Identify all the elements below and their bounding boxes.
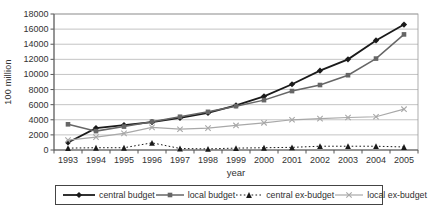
legend-label: central budget	[99, 190, 155, 200]
triangle-marker	[401, 144, 407, 150]
square-marker	[206, 110, 211, 115]
square-marker	[150, 119, 155, 124]
central-budget-line-diamond-icon	[62, 190, 96, 200]
x-tick-label: 2002	[310, 155, 330, 165]
y-tick-label: 0	[43, 145, 48, 155]
square-marker	[94, 129, 99, 134]
square-marker	[167, 193, 172, 198]
square-marker	[122, 124, 127, 129]
y-tick-label: 2000	[28, 130, 48, 140]
budget-line-chart-figure: 100 million 0200040006000800010000120001…	[0, 0, 429, 211]
square-marker	[262, 98, 267, 103]
diamond-marker	[289, 81, 295, 87]
x-tick-label: 1999	[226, 155, 246, 165]
triangle-marker	[345, 143, 351, 149]
legend-item-central-budget: central budget	[62, 190, 155, 200]
triangle-marker	[205, 146, 211, 152]
square-marker	[318, 83, 323, 88]
diamond-marker	[76, 192, 82, 198]
legend-item-local-ex-budget: local ex-budget	[334, 190, 427, 200]
legend-item-local-budget: local budget	[155, 190, 235, 200]
square-marker	[346, 73, 351, 78]
x-tick-label: 2005	[394, 155, 414, 165]
triangle-marker	[246, 192, 252, 198]
local-ex-budget-line-x-icon	[334, 190, 364, 200]
local-budget-line-square-icon	[155, 190, 185, 200]
x-tick-label: 1997	[170, 155, 190, 165]
y-tick-label: 18000	[23, 9, 48, 19]
chart-legend: central budget local budget central ex-b…	[55, 185, 383, 205]
square-marker	[374, 56, 379, 61]
square-marker	[402, 32, 407, 37]
square-marker	[290, 89, 295, 94]
x-axis-title: year	[54, 167, 418, 178]
central-ex-budget-dotted-triangle-icon	[235, 190, 263, 200]
x-tick-label: 2004	[366, 155, 386, 165]
y-tick-label: 16000	[23, 24, 48, 34]
x-tick-label: 1995	[114, 155, 134, 165]
y-tick-label: 14000	[23, 39, 48, 49]
y-tick-label: 4000	[28, 115, 48, 125]
series-line-local-budget	[68, 34, 404, 131]
x-tick-label: 2003	[338, 155, 358, 165]
diamond-marker	[317, 68, 323, 74]
triangle-marker	[177, 146, 183, 152]
legend-label: local budget	[188, 190, 235, 200]
triangle-marker	[233, 145, 239, 151]
square-marker	[178, 114, 183, 119]
y-tick-label: 10000	[23, 69, 48, 79]
square-marker	[234, 104, 239, 109]
y-tick-label: 12000	[23, 54, 48, 64]
legend-item-central-ex-budget: central ex-budget	[235, 190, 334, 200]
square-marker	[66, 122, 71, 127]
x-tick-label: 1994	[86, 155, 106, 165]
triangle-marker	[93, 145, 99, 151]
y-tick-label: 6000	[28, 100, 48, 110]
triangle-marker	[65, 145, 71, 151]
x-tick-label: 1998	[198, 155, 218, 165]
chart-plot: 0200040006000800010000120001400016000180…	[0, 0, 429, 211]
x-tick-label: 2001	[282, 155, 302, 165]
y-tick-label: 8000	[28, 85, 48, 95]
legend-label: central ex-budget	[266, 190, 334, 200]
x-tick-label: 1996	[142, 155, 162, 165]
x-tick-label: 1993	[58, 155, 78, 165]
triangle-marker	[373, 143, 379, 149]
x-tick-label: 2000	[254, 155, 274, 165]
legend-label: local ex-budget	[367, 190, 427, 200]
triangle-marker	[121, 145, 127, 151]
